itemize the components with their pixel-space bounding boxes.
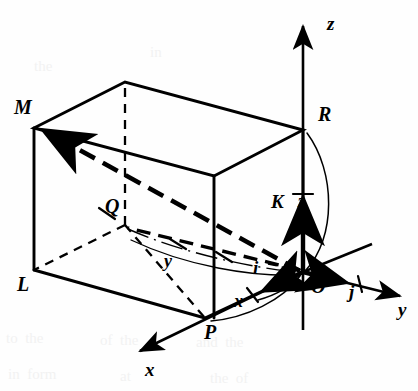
point-label-M: M <box>14 97 32 117</box>
box-visible-edges <box>34 82 303 318</box>
point-label-Q: Q <box>105 196 119 216</box>
unit-vector-label-k: K <box>271 192 284 211</box>
axis-label-x: x <box>145 360 155 379</box>
vector-diagram-figure: to the of the and the in form at the of … <box>0 0 418 391</box>
box-hidden-edges <box>34 82 205 318</box>
point-label-O: O <box>311 276 325 296</box>
measure-label-z: z <box>298 192 305 210</box>
measure-arc-z <box>306 133 329 270</box>
measure-label-x: x <box>234 292 243 310</box>
point-label-L: L <box>17 274 29 294</box>
auxiliary-ray <box>303 244 372 272</box>
unit-vector-label-i: i <box>253 258 258 277</box>
axis-label-y: y <box>398 300 406 319</box>
measure-label-y: y <box>164 252 172 270</box>
point-label-R: R <box>318 104 331 124</box>
unit-vector-label-j: j <box>349 282 354 301</box>
axis-label-z: z <box>327 14 334 33</box>
point-label-P: P <box>204 322 216 342</box>
